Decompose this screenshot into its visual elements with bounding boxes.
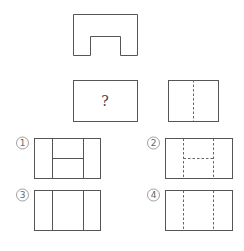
option-view-box	[35, 191, 101, 231]
three-view-diagram: ? 1234	[0, 0, 244, 251]
top-view	[74, 15, 138, 56]
side-view	[169, 80, 219, 122]
top-view-outline	[74, 15, 138, 56]
option-2[interactable]: 2	[148, 137, 233, 179]
option-number-label: 3	[20, 190, 26, 200]
option-view-box	[166, 191, 233, 231]
front-view: ?	[74, 81, 138, 122]
option-number-label: 2	[151, 138, 157, 148]
option-1[interactable]: 1	[17, 137, 101, 179]
answer-options: 1234	[17, 137, 233, 231]
option-3[interactable]: 3	[17, 189, 101, 231]
option-number-label: 4	[151, 190, 157, 200]
option-number-label: 1	[20, 138, 26, 148]
unknown-view-question-mark: ?	[101, 93, 109, 109]
option-4[interactable]: 4	[148, 189, 233, 231]
